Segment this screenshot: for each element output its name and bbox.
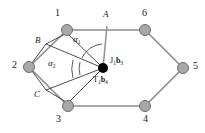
- node-1[interactable]: [62, 25, 73, 36]
- angle-label-alpha1: α1: [73, 35, 80, 44]
- alpha1-subscript: 1: [78, 39, 81, 45]
- point-label-A: A: [103, 10, 109, 19]
- arc-alpha2-inner: [79, 62, 80, 75]
- joint-bottom-vector-subscript: 4: [105, 79, 108, 85]
- node-label-4: 4: [143, 114, 148, 124]
- arc-alpha2: [72, 60, 73, 78]
- node-label-3: 3: [56, 114, 61, 124]
- node-label-5: 5: [193, 61, 198, 71]
- node-label-1: 1: [55, 8, 60, 18]
- point-label-C: C: [34, 90, 40, 99]
- joint-top-subscript: 1: [113, 60, 116, 66]
- node-label-2: 2: [12, 60, 17, 70]
- joint-label-bottom: T1b4: [93, 76, 108, 84]
- node-6[interactable]: [140, 25, 151, 36]
- joint-node[interactable]: [98, 63, 108, 73]
- joint-bottom-subscript: 1: [98, 79, 101, 85]
- hexagonal-linkage-diagram: 1 2 3 4 5 6 A B C α1 α2 J1b3 T1b4: [0, 0, 205, 133]
- angle-label-alpha2: α2: [48, 59, 55, 68]
- alpha2-subscript: 2: [53, 63, 56, 69]
- joint-top-vector-subscript: 3: [120, 60, 123, 66]
- joint-label-top: J1b3: [110, 57, 123, 65]
- node-label-6: 6: [142, 8, 147, 18]
- link-A-joint: [103, 26, 107, 68]
- link-node3-joint: [68, 68, 103, 103]
- point-label-B: B: [35, 36, 41, 45]
- edge-5-4: [145, 68, 183, 106]
- node-2[interactable]: [24, 62, 35, 73]
- diagram-canvas: [0, 0, 205, 133]
- edge-6-5: [145, 30, 183, 68]
- edge-3-2: [29, 67, 68, 106]
- node-4[interactable]: [140, 101, 151, 112]
- node-5[interactable]: [178, 63, 189, 74]
- node-3[interactable]: [63, 101, 74, 112]
